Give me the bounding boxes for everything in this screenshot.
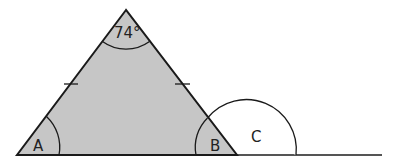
- exterior-angle-c-label: C: [251, 128, 261, 146]
- apex-angle-label: 74°: [114, 24, 141, 42]
- angle-b-label: B: [210, 137, 220, 155]
- triangle-diagram: 74° A B C: [0, 0, 403, 163]
- angle-a-label: A: [33, 137, 44, 155]
